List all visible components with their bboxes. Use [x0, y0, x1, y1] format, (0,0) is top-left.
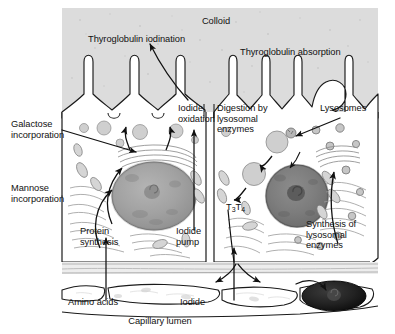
label-digestion-by-lysosomal-enzymes: Digestion by lysosomal enzymes — [217, 103, 279, 135]
left-cell-nucleus — [112, 162, 196, 230]
label-lysosomes: Lysosomes — [320, 103, 366, 114]
endothelial-nucleus — [302, 281, 366, 311]
diagram-canvas: Colloid Thyroglobulin iodination Thyrogl… — [0, 0, 395, 334]
label-amino-acids: Amino acids — [68, 297, 118, 308]
label-synthesis-of-lysosomal-enzymes: Synthesis of lysosomal enzymes — [306, 219, 376, 251]
label-mannose-incorporation: Mannose incorporation — [11, 183, 73, 204]
basement-membrane — [62, 262, 378, 274]
label-t4-subscript: 4 — [241, 206, 245, 213]
label-t3-t4: T3T4 — [226, 191, 245, 215]
label-galactose-incorporation: Galactose incorporation — [11, 119, 73, 140]
label-iodide-pump: Iodide pump — [176, 226, 214, 247]
label-protein-synthesis: Protein synthesis — [80, 226, 132, 247]
label-thyroglobulin-iodination: Thyroglobulin iodination — [88, 34, 185, 45]
label-iodide: Iodide — [180, 297, 205, 308]
label-thyroglobulin-absorption: Thyroglobulin absorption — [240, 47, 341, 58]
lysosome-fusing — [286, 128, 296, 138]
label-colloid: Colloid — [181, 16, 251, 27]
label-capillary-lumen: Capillary lumen — [100, 316, 220, 327]
right-cell-nucleus — [266, 165, 328, 227]
label-iodide-oxidation: Iodide oxidation — [178, 103, 212, 124]
